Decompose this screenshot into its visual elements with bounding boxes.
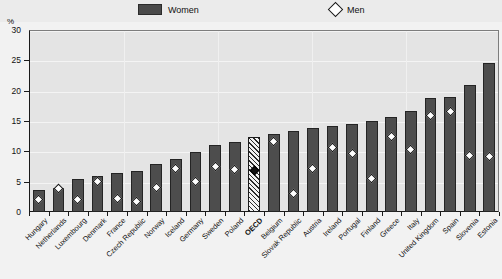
legend-label-men: Men xyxy=(347,5,365,15)
x-axis-labels: HungaryNetherlandsLuxembourgDenmarkFranc… xyxy=(0,212,502,279)
legend-label-women: Women xyxy=(168,5,199,15)
chart-root: Women Men % 051015202530 HungaryNetherla… xyxy=(0,0,502,279)
bar-women xyxy=(366,121,378,212)
x-axis-label: Estonia xyxy=(476,216,500,240)
bar-women xyxy=(288,131,300,212)
legend-item-women: Women xyxy=(138,4,199,15)
bar-women xyxy=(405,111,417,212)
x-axis-label: Norway xyxy=(143,216,167,240)
y-axis-tick-label: 30 xyxy=(12,25,21,35)
y-axis-tick-label: 20 xyxy=(12,86,21,96)
x-axis-label: Austria xyxy=(301,216,324,239)
bar-women xyxy=(346,124,358,212)
legend-item-men: Men xyxy=(330,4,365,15)
y-axis-tick-label: 5 xyxy=(16,177,21,187)
bar-women xyxy=(464,85,476,212)
y-axis-tick-label: 25 xyxy=(12,55,21,65)
bar-swatch-icon xyxy=(138,4,162,15)
bar-women xyxy=(327,126,339,212)
bar-women xyxy=(229,142,241,212)
y-axis-tick-label: 10 xyxy=(12,146,21,156)
x-axis-label: Greece xyxy=(378,216,402,240)
chart-legend: Women Men xyxy=(0,0,502,22)
diamond-marker-icon xyxy=(328,2,344,18)
bar-women xyxy=(209,145,221,212)
data-series-container xyxy=(29,30,499,212)
y-axis-tick-label: 15 xyxy=(12,116,21,126)
x-axis-label: Sweden xyxy=(200,216,225,241)
y-axis: 051015202530 xyxy=(0,0,29,220)
x-axis-label: Poland xyxy=(222,216,245,239)
x-axis-label: Finland xyxy=(359,216,383,240)
bar-women xyxy=(483,63,495,212)
